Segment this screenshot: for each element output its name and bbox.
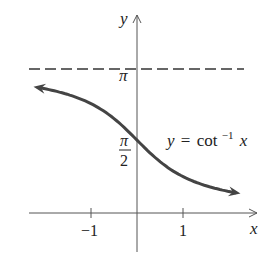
y-tick-label-pi-half-den: 2 [120, 152, 128, 169]
function-label: y = cot −1 x [165, 124, 248, 150]
y-tick-label-pi: π [119, 66, 128, 85]
x-axis-label: x [249, 219, 258, 238]
x-tick-label-neg1: −1 [81, 222, 98, 239]
y-axis-label: y [118, 9, 128, 28]
y-tick-label-pi-half-num: π [120, 132, 129, 149]
x-tick-label-1: 1 [179, 222, 187, 239]
chart-canvas: y x π π 2 −1 1 y = cot −1 x [0, 0, 272, 255]
